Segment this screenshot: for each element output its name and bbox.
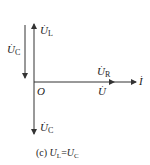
figure-caption: (c) UL=UC bbox=[36, 147, 79, 160]
phasor-dot-icon: · bbox=[43, 21, 46, 30]
phasor-lines bbox=[0, 0, 150, 165]
phasor-dot-icon: · bbox=[10, 40, 13, 49]
ul-label: ·UL bbox=[40, 25, 53, 38]
phasor-dot-icon: · bbox=[43, 118, 46, 127]
uc-left-label: ·UC bbox=[7, 44, 20, 57]
uc-label: ·UC bbox=[40, 122, 53, 135]
phasor-dot-icon: · bbox=[101, 82, 104, 91]
i-label: ·I bbox=[139, 76, 143, 87]
phasor-dot-icon: · bbox=[140, 72, 143, 81]
u-label: ·U bbox=[98, 86, 106, 97]
phasor-dot-icon: · bbox=[100, 62, 103, 71]
origin-label: O bbox=[37, 86, 45, 97]
ur-label: ·UR bbox=[97, 66, 110, 79]
phasor-diagram: ·UL ·UC O ·UC ·UR ·U ·I (c) UL=UC bbox=[0, 0, 150, 165]
